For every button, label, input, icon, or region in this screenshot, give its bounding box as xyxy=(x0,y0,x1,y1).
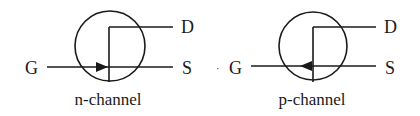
p-channel-arrow-left-icon xyxy=(300,61,312,71)
n-channel-jfet-symbol: G D S n-channel xyxy=(25,11,194,109)
n-channel-drain-label: D xyxy=(181,17,194,37)
p-channel-jfet-symbol: · G D S p-channel xyxy=(216,12,397,109)
n-channel-gate-label: G xyxy=(25,58,38,78)
n-channel-caption: n-channel xyxy=(74,90,141,109)
p-channel-caption: p-channel xyxy=(278,90,345,109)
n-channel-source-label: S xyxy=(182,58,192,78)
p-channel-gate-label: G xyxy=(229,58,242,78)
jfet-symbols-diagram: G D S n-channel · G D S p-channel xyxy=(0,0,420,116)
p-channel-source-label: S xyxy=(385,58,395,78)
n-channel-arrow-right-icon xyxy=(96,62,108,72)
stray-dot-mark: · xyxy=(216,63,219,74)
p-channel-drain-label: D xyxy=(384,17,397,37)
n-channel-envelope-circle xyxy=(75,11,145,81)
